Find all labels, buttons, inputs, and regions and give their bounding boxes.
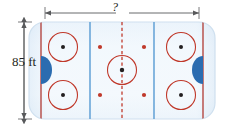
- hockey-rink-figure: 85 ft ?: [0, 0, 232, 127]
- arrow-down-icon: [21, 113, 26, 119]
- neutral-dot-bottom-left: [98, 93, 102, 97]
- width-dimension-label: 85 ft: [12, 55, 36, 68]
- arrow-right-icon: [193, 10, 199, 15]
- length-dimension: [45, 5, 199, 19]
- neutral-dot-top-left: [98, 45, 102, 49]
- neutral-dot-bottom-right: [142, 93, 146, 97]
- arrow-up-icon: [21, 22, 26, 28]
- arrow-left-icon: [45, 10, 51, 15]
- length-dimension-label: ?: [112, 1, 118, 13]
- neutral-dot-top-right: [142, 45, 146, 49]
